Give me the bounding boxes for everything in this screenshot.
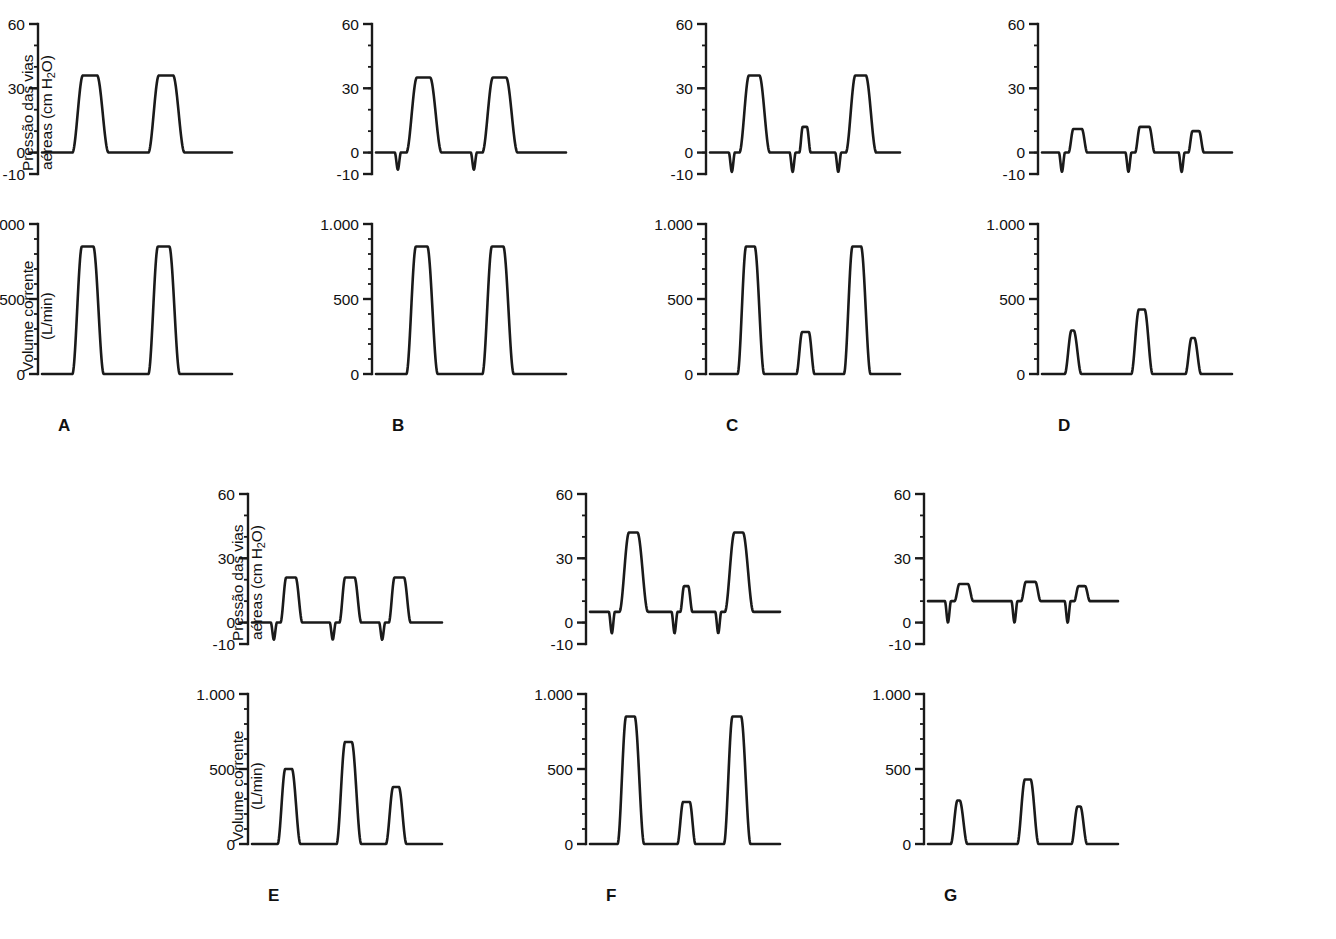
volume-waveform-trace <box>376 247 566 375</box>
axis-tick-label: -10 <box>1003 166 1026 183</box>
volume-waveform-trace <box>1042 310 1232 375</box>
pressure-waveform-trace <box>252 578 442 640</box>
axis-tick-label: -10 <box>671 166 694 183</box>
axis-tick-label: -10 <box>889 636 912 653</box>
axis-tick-label: 0 <box>684 366 693 383</box>
pressure-axis-title: Pressão das viasaéreas (cm H2O) <box>18 28 59 198</box>
panel-letter-a: A <box>58 416 70 436</box>
axis-tick-label: 60 <box>342 16 360 33</box>
volume-subplot-c: 1.0005000 <box>668 218 1004 418</box>
volume-subplot-f: 1.0005000 <box>548 688 884 888</box>
volume-waveform-trace <box>42 247 232 375</box>
pressure-waveform-trace <box>42 75 232 152</box>
axis-tick-label: 0 <box>684 144 693 161</box>
axis-tick-label: 0 <box>902 836 911 853</box>
axis-tick-label: 60 <box>1008 16 1026 33</box>
panel-letter-e: E <box>268 886 279 906</box>
pressure-plot-svg: 60300-10 <box>1000 18 1250 182</box>
axis-tick-label: 1.000 <box>196 686 235 703</box>
volume-subplot-b: 1.0005000 <box>334 218 670 418</box>
axis-tick-label: 0 <box>1016 366 1025 383</box>
pressure-plot-svg: 60300-10 <box>886 488 1136 652</box>
pressure-subplot-a: 60300-10Pressão das viasaéreas (cm H2O) <box>0 18 336 218</box>
pressure-subplot-c: 60300-10 <box>668 18 1004 218</box>
panel-letter-g: G <box>944 886 957 906</box>
volume-plot-svg: 1.0005000 <box>548 688 798 852</box>
panel-d: 60300-101.0005000D <box>1000 0 1336 469</box>
pressure-waveform-trace <box>376 78 566 170</box>
panel-e: 60300-10Pressão das viasaéreas (cm H2O)1… <box>210 470 546 939</box>
panel-a: 60300-10Pressão das viasaéreas (cm H2O)1… <box>0 0 336 469</box>
axis-tick-label: 1.000 <box>0 216 25 233</box>
axis-tick-label: 60 <box>556 486 574 503</box>
axis-tick-label: 500 <box>999 291 1025 308</box>
axis-tick-label: 0 <box>350 144 359 161</box>
axis-tick-label: 500 <box>547 761 573 778</box>
figure-row-top: 60300-10Pressão das viasaéreas (cm H2O)1… <box>0 0 1336 470</box>
axis-tick-label: 30 <box>342 80 360 97</box>
panel-letter-f: F <box>606 886 616 906</box>
volume-subplot-a: 1.0005000Volume corrente(L/min) <box>0 218 336 418</box>
panel-letter-d: D <box>1058 416 1070 436</box>
axis-tick-label: 0 <box>1016 144 1025 161</box>
pressure-subplot-e: 60300-10Pressão das viasaéreas (cm H2O) <box>210 488 546 688</box>
panel-letter-c: C <box>726 416 738 436</box>
volume-axis-title: Volume corrente(L/min) <box>228 704 267 869</box>
pressure-axis-title: Pressão das viasaéreas (cm H2O) <box>228 498 269 668</box>
pressure-plot-svg: 60300-10 <box>548 488 798 652</box>
axis-tick-label: 1.000 <box>654 216 693 233</box>
axis-tick-label: 60 <box>894 486 912 503</box>
pressure-waveform-trace <box>928 582 1118 623</box>
figure-row-bottom: 60300-10Pressão das viasaéreas (cm H2O)1… <box>0 470 1336 939</box>
pressure-subplot-d: 60300-10 <box>1000 18 1336 218</box>
axis-tick-label: 500 <box>885 761 911 778</box>
axis-tick-label: 0 <box>350 366 359 383</box>
axis-tick-label: 500 <box>333 291 359 308</box>
pressure-subplot-g: 60300-10 <box>886 488 1222 688</box>
volume-subplot-g: 1.0005000 <box>886 688 1222 888</box>
pressure-subplot-f: 60300-10 <box>548 488 884 688</box>
axis-tick-label: 0 <box>902 614 911 631</box>
pressure-plot-svg: 60300-10 <box>668 18 918 182</box>
axis-tick-label: 0 <box>564 836 573 853</box>
axis-tick-label: 0 <box>564 614 573 631</box>
volume-waveform-trace <box>590 717 780 845</box>
axis-tick-label: 60 <box>676 16 694 33</box>
axis-tick-label: 30 <box>894 550 912 567</box>
axis-tick-label: 1.000 <box>320 216 359 233</box>
axis-tick-label: 1.000 <box>872 686 911 703</box>
volume-plot-svg: 1.0005000 <box>334 218 584 382</box>
panel-letter-b: B <box>392 416 404 436</box>
panel-b: 60300-101.0005000B <box>334 0 670 469</box>
pressure-waveform-trace <box>710 75 900 171</box>
axis-tick-label: 1.000 <box>534 686 573 703</box>
volume-axis-title: Volume corrente(L/min) <box>18 234 57 399</box>
axis-tick-label: 1.000 <box>986 216 1025 233</box>
volume-waveform-trace <box>252 742 442 844</box>
volume-plot-svg: 1.0005000 <box>1000 218 1250 382</box>
panel-c: 60300-101.0005000C <box>668 0 1004 469</box>
volume-plot-svg: 1.0005000 <box>668 218 918 382</box>
volume-waveform-trace <box>928 780 1118 845</box>
axis-tick-label: -10 <box>551 636 574 653</box>
pressure-subplot-b: 60300-10 <box>334 18 670 218</box>
panel-g: 60300-101.0005000G <box>886 470 1222 939</box>
axis-tick-label: 500 <box>667 291 693 308</box>
pressure-waveform-trace <box>590 533 780 634</box>
volume-subplot-d: 1.0005000 <box>1000 218 1336 418</box>
pressure-plot-svg: 60300-10 <box>334 18 584 182</box>
panel-f: 60300-101.0005000F <box>548 470 884 939</box>
volume-plot-svg: 1.0005000 <box>886 688 1136 852</box>
axis-tick-label: 30 <box>556 550 574 567</box>
axis-tick-label: -10 <box>337 166 360 183</box>
axis-tick-label: 30 <box>1008 80 1026 97</box>
pressure-waveform-trace <box>1042 127 1232 172</box>
axis-tick-label: 30 <box>676 80 694 97</box>
volume-subplot-e: 1.0005000Volume corrente(L/min) <box>210 688 546 888</box>
ventilator-waveform-figure: 60300-10Pressão das viasaéreas (cm H2O)1… <box>0 0 1336 939</box>
volume-waveform-trace <box>710 247 900 375</box>
